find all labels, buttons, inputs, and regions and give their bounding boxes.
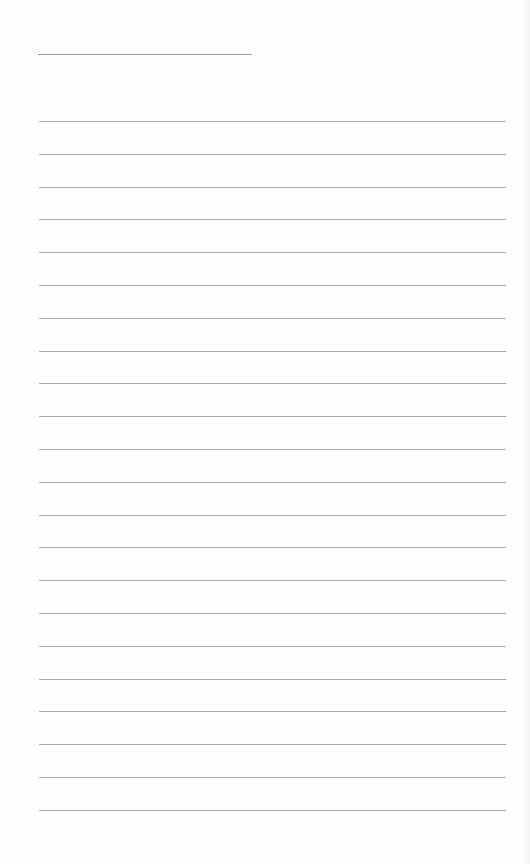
page-edge-shadow — [522, 0, 530, 864]
ruled-line — [39, 711, 506, 712]
ruled-line — [39, 810, 506, 811]
ruled-line — [39, 219, 506, 220]
ruled-line — [39, 383, 506, 384]
ruled-line — [39, 252, 506, 253]
ruled-line — [39, 547, 506, 548]
ruled-line — [39, 351, 506, 352]
ruled-line — [39, 482, 506, 483]
ruled-line — [39, 154, 506, 155]
ruled-line — [39, 285, 506, 286]
ruled-line — [39, 744, 506, 745]
ruled-line — [39, 679, 506, 680]
ruled-line — [39, 121, 506, 122]
lined-page — [0, 0, 530, 864]
ruled-line — [39, 777, 506, 778]
ruled-line — [39, 416, 506, 417]
title-write-line — [38, 54, 252, 55]
ruled-line — [39, 515, 506, 516]
ruled-line — [39, 449, 506, 450]
ruled-line — [39, 187, 506, 188]
ruled-line — [39, 318, 506, 319]
ruled-line — [39, 646, 506, 647]
ruled-line — [39, 613, 506, 614]
ruled-line — [39, 580, 506, 581]
